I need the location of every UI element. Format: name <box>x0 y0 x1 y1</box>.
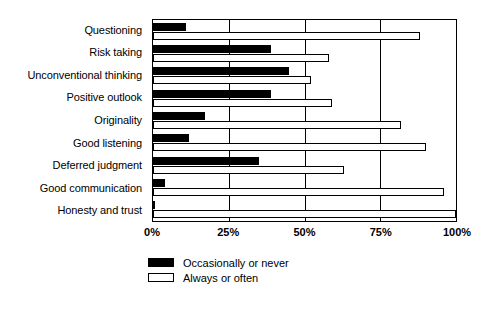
bar-group-positive-outlook <box>153 87 456 109</box>
legend-label-always-or-often: Always or often <box>183 272 258 284</box>
legend-swatch-light-icon <box>148 273 174 282</box>
bar-row <box>153 54 456 62</box>
bar-group-honesty-and-trust <box>153 199 456 221</box>
bar-row <box>153 90 456 98</box>
bar-row <box>153 121 456 129</box>
category-label-questioning: Questioning <box>0 19 148 42</box>
bar-row <box>153 134 456 142</box>
bar-good-communication-occasionally-or-never <box>153 179 165 187</box>
bar-positive-outlook-occasionally-or-never <box>153 90 271 98</box>
x-tick-label-25: 25% <box>217 226 239 238</box>
legend-label-occasionally-or-never: Occasionally or never <box>183 257 289 269</box>
category-label-risk-taking: Risk taking <box>0 42 148 65</box>
category-label-deferred-judgment: Deferred judgment <box>0 154 148 177</box>
category-axis: Questioning Risk taking Unconventional t… <box>0 19 148 222</box>
x-tick-label-100: 100% <box>443 226 471 238</box>
bar-unconventional-thinking-always-or-often <box>153 76 311 84</box>
category-label-originality: Originality <box>0 109 148 132</box>
category-label-good-listening: Good listening <box>0 132 148 155</box>
bar-group-questioning <box>153 20 456 42</box>
bar-row <box>153 45 456 53</box>
bar-row <box>153 201 456 209</box>
bar-group-originality <box>153 109 456 131</box>
legend-item-always-or-often: Always or often <box>148 270 378 285</box>
bar-unconventional-thinking-occasionally-or-never <box>153 67 289 75</box>
bar-group-good-listening <box>153 132 456 154</box>
bar-chart: Questioning Risk taking Unconventional t… <box>0 0 496 309</box>
plot-area <box>152 19 457 222</box>
bar-positive-outlook-always-or-often <box>153 99 332 107</box>
bar-risk-taking-always-or-often <box>153 54 329 62</box>
bar-row <box>153 67 456 75</box>
bar-row <box>153 32 456 40</box>
bar-questioning-occasionally-or-never <box>153 23 186 31</box>
bar-group-risk-taking <box>153 42 456 64</box>
bar-row <box>153 188 456 196</box>
bar-deferred-judgment-always-or-often <box>153 166 344 174</box>
legend-swatch-dark-icon <box>148 258 174 267</box>
bar-row <box>153 143 456 151</box>
bar-honesty-and-trust-always-or-often <box>153 210 456 218</box>
bar-row <box>153 179 456 187</box>
bar-row <box>153 166 456 174</box>
bar-group-good-communication <box>153 176 456 198</box>
category-label-positive-outlook: Positive outlook <box>0 87 148 110</box>
bar-good-communication-always-or-often <box>153 188 444 196</box>
bar-row <box>153 23 456 31</box>
legend-item-occasionally-or-never: Occasionally or never <box>148 255 378 270</box>
bar-honesty-and-trust-occasionally-or-never <box>153 201 155 209</box>
category-label-good-communication: Good communication <box>0 177 148 200</box>
bar-row <box>153 99 456 107</box>
bar-row <box>153 76 456 84</box>
bar-risk-taking-occasionally-or-never <box>153 45 271 53</box>
bar-row <box>153 112 456 120</box>
bar-row <box>153 157 456 165</box>
bar-originality-always-or-often <box>153 121 401 129</box>
bar-good-listening-always-or-often <box>153 143 426 151</box>
bars-layer <box>153 20 456 221</box>
x-tick-label-75: 75% <box>370 226 392 238</box>
bar-good-listening-occasionally-or-never <box>153 134 189 142</box>
bar-group-deferred-judgment <box>153 154 456 176</box>
bar-group-unconventional-thinking <box>153 65 456 87</box>
x-tick-label-0: 0% <box>144 226 160 238</box>
x-tick-label-50: 50% <box>293 226 315 238</box>
bar-originality-occasionally-or-never <box>153 112 205 120</box>
bar-row <box>153 210 456 218</box>
x-axis: 0%25%50%75%100% <box>152 226 457 240</box>
category-label-unconventional-thinking: Unconventional thinking <box>0 64 148 87</box>
chart-legend: Occasionally or never Always or often <box>148 255 378 285</box>
category-label-honesty-and-trust: Honesty and trust <box>0 200 148 223</box>
bar-deferred-judgment-occasionally-or-never <box>153 157 259 165</box>
bar-questioning-always-or-often <box>153 32 420 40</box>
